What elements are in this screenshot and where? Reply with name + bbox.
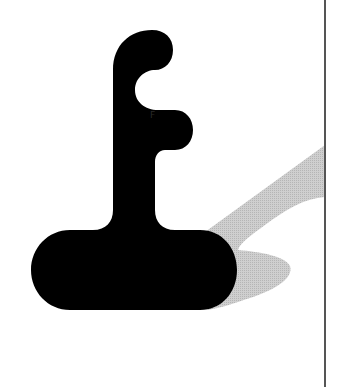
joystick-shape	[31, 30, 237, 310]
inner-glyph: F	[150, 110, 155, 120]
artwork-svg	[0, 0, 338, 387]
artwork-canvas: F	[0, 0, 338, 387]
vertical-rule	[324, 0, 326, 387]
